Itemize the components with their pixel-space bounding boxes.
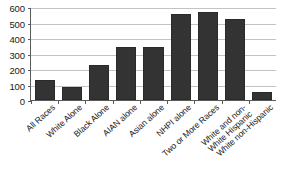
bar	[171, 14, 191, 100]
bar-series	[31, 8, 276, 100]
bar	[198, 12, 218, 100]
bar-slot	[58, 8, 85, 100]
bar	[252, 92, 272, 100]
plot-area	[30, 8, 276, 101]
x-axis-tick-labels: All RacesWhite AloneBlack AloneAIAN alon…	[30, 103, 276, 189]
bar-slot	[140, 8, 167, 100]
bar	[35, 80, 55, 100]
bar-slot	[113, 8, 140, 100]
y-axis-tick-label: 100	[9, 81, 25, 90]
bar-slot	[85, 8, 112, 100]
y-axis-tick-label: 200	[9, 66, 25, 75]
bar-slot	[222, 8, 249, 100]
bar	[143, 47, 163, 100]
bar	[62, 87, 82, 100]
bar-slot	[194, 8, 221, 100]
bar-slot	[249, 8, 276, 100]
bar	[89, 65, 109, 100]
y-axis-tick-labels: 0100200300400500600	[0, 8, 25, 101]
bar	[116, 47, 136, 100]
bar	[225, 19, 245, 100]
bar-chart: 0100200300400500600 All RacesWhite Alone…	[0, 0, 294, 190]
bar-slot	[31, 8, 58, 100]
y-axis-tick-label: 300	[9, 50, 25, 59]
y-axis-tick-label: 600	[9, 4, 25, 13]
y-axis-tick-label: 0	[20, 97, 25, 106]
bar-slot	[167, 8, 194, 100]
y-axis-tick-label: 500	[9, 19, 25, 28]
y-axis-tick-label: 400	[9, 35, 25, 44]
